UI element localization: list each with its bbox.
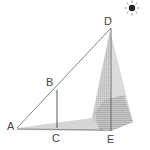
label-D: D: [104, 16, 112, 27]
label-A: A: [7, 121, 14, 132]
sun-icon: [125, 1, 140, 16]
diagram-canvas: A B C D E: [0, 0, 150, 150]
diagram-svg: [0, 0, 150, 150]
label-C: C: [52, 133, 60, 144]
label-B: B: [46, 77, 53, 88]
label-E: E: [107, 134, 114, 145]
